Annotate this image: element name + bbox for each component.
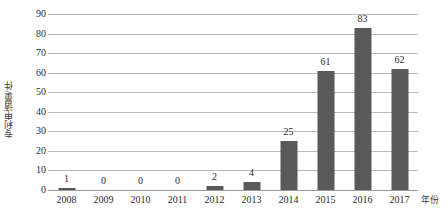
y-tick-label: 60 xyxy=(18,68,46,78)
y-tick-label: 80 xyxy=(18,29,46,39)
bar-value-label: 4 xyxy=(249,168,254,178)
bar-group[interactable]: 4 xyxy=(233,14,270,190)
y-tick-label: 90 xyxy=(18,9,46,19)
bar-value-label: 0 xyxy=(101,176,106,186)
bar-group[interactable]: 2 xyxy=(196,14,233,190)
x-tick-label: 2015 xyxy=(316,194,336,206)
bar[interactable] xyxy=(354,28,371,190)
bar[interactable] xyxy=(280,141,297,190)
y-tick-label: 0 xyxy=(18,185,46,195)
bar-group[interactable]: 62 xyxy=(381,14,418,190)
x-tick-label: 2009 xyxy=(94,194,114,206)
bar-value-label: 1 xyxy=(64,174,69,184)
bars-layer: 10002425618362 xyxy=(48,14,418,190)
y-tick-label: 50 xyxy=(18,87,46,97)
bar-value-label: 2 xyxy=(212,172,217,182)
bar[interactable] xyxy=(243,182,260,190)
y-tick-label: 10 xyxy=(18,165,46,175)
y-tick-label: 30 xyxy=(18,126,46,136)
bar-value-label: 83 xyxy=(358,14,368,24)
bar-value-label: 0 xyxy=(175,176,180,186)
x-tick-label: 2013 xyxy=(242,194,262,206)
x-axis-line xyxy=(48,190,418,191)
y-axis-tick-labels: 0102030405060708090 xyxy=(18,0,46,224)
y-tick-label: 70 xyxy=(18,48,46,58)
bar-group[interactable]: 83 xyxy=(344,14,381,190)
bar-value-label: 61 xyxy=(321,57,331,67)
x-tick-label: 2008 xyxy=(57,194,77,206)
x-tick-label: 2012 xyxy=(205,194,225,206)
bar-group[interactable]: 1 xyxy=(48,14,85,190)
x-tick-label: 2016 xyxy=(353,194,373,206)
patent-application-bar-chart: 专利申请量/件 0102030405060708090 100024256183… xyxy=(0,0,448,224)
bar-value-label: 0 xyxy=(138,176,143,186)
bar-group[interactable]: 0 xyxy=(122,14,159,190)
bar-group[interactable]: 0 xyxy=(85,14,122,190)
bar-value-label: 62 xyxy=(395,55,405,65)
x-axis-tick-labels: 2008200920102011201220132014201520162017 xyxy=(48,192,418,208)
bar-group[interactable]: 61 xyxy=(307,14,344,190)
y-axis-title: 专利申请量/件 xyxy=(0,50,16,170)
bar-group[interactable]: 0 xyxy=(159,14,196,190)
bar[interactable] xyxy=(206,186,223,190)
x-tick-label: 2011 xyxy=(168,194,188,206)
x-tick-label: 2010 xyxy=(131,194,151,206)
x-tick-label: 2017 xyxy=(390,194,410,206)
bar[interactable] xyxy=(58,188,75,190)
bar[interactable] xyxy=(391,69,408,190)
x-axis-title: 年份 xyxy=(421,194,439,206)
y-tick-label: 20 xyxy=(18,146,46,156)
y-tick-label: 40 xyxy=(18,107,46,117)
bar-group[interactable]: 25 xyxy=(270,14,307,190)
bar[interactable] xyxy=(317,71,334,190)
bar-value-label: 25 xyxy=(284,127,294,137)
x-tick-label: 2014 xyxy=(279,194,299,206)
